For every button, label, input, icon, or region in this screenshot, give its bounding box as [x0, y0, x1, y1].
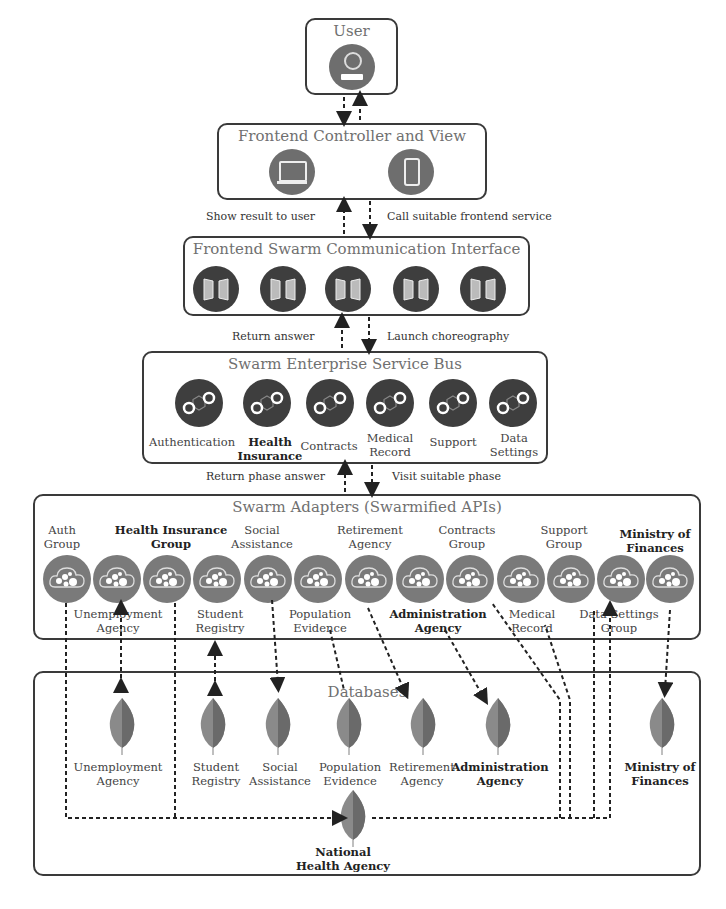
adapter-label-health-insurance-group: Health Insurance Group [106, 523, 236, 551]
smartphone-icon [388, 149, 434, 195]
frontend-controller-title: Frontend Controller and View [219, 127, 485, 145]
adapter-label-administration-agency: Administration Agency [383, 607, 493, 635]
cloud-adapter-icon [43, 555, 91, 603]
database-leaf-icon [409, 696, 437, 756]
database-leaf-icon [335, 696, 363, 756]
door-icon [325, 266, 371, 312]
service-label-health-insurance: Health Insurance [235, 435, 305, 463]
adapter-label-support-group: Support Group [534, 523, 594, 551]
user-box: User [305, 18, 398, 95]
db-label-student-registry: Student Registry [188, 760, 244, 788]
cloud-adapter-icon [396, 555, 444, 603]
esb-title: Swarm Enterprise Service Bus [144, 355, 546, 373]
cloud-adapter-icon [345, 555, 393, 603]
db-label-social-assistance: Social Assistance [245, 760, 315, 788]
service-node-icon [243, 379, 291, 427]
arrow-label-return-answer: Return answer [232, 330, 315, 343]
frontend-controller-box: Frontend Controller and View [217, 123, 487, 200]
db-label-ministry-of-finances: Ministry of Finances [620, 760, 700, 788]
service-label-contracts: Contracts [300, 439, 357, 453]
database-leaf-icon [108, 696, 136, 756]
cloud-adapter-icon [597, 555, 645, 603]
cloud-adapter-icon [193, 555, 241, 603]
user-icon [329, 44, 375, 90]
db-label-national-health-agency: National Health Agency [293, 845, 393, 873]
service-node-icon [429, 379, 477, 427]
db-label-unemployment-agency: Unemployment Agency [68, 760, 168, 788]
cloud-adapter-icon [93, 555, 141, 603]
service-label-data-settings: Data Settings [484, 431, 544, 459]
adapter-label-social-assistance: Social Assistance [227, 523, 297, 551]
adapter-label-ministry-of-finances: Ministry of Finances [615, 527, 695, 555]
enterprise-service-bus-box: Swarm Enterprise Service Bus Authenticat… [142, 351, 548, 464]
door-icon [193, 266, 239, 312]
door-icon [260, 266, 306, 312]
database-leaf-icon [648, 696, 676, 756]
cloud-adapter-icon [244, 555, 292, 603]
cloud-adapter-icon [497, 555, 545, 603]
arrow-label-return-phase: Return phase answer [206, 470, 325, 483]
service-label-support: Support [429, 435, 476, 449]
adapters-title: Swarm Adapters (Swarmified APIs) [35, 498, 699, 516]
database-leaf-icon [339, 788, 367, 848]
service-label-authentication: Authentication [149, 435, 235, 449]
door-icon [460, 266, 506, 312]
adapter-label-data-settings-group: Data Settings Group [574, 607, 664, 635]
cloud-adapter-icon [646, 555, 694, 603]
adapter-label-medical-record: Medical Record [504, 607, 560, 635]
service-node-icon [306, 379, 354, 427]
frontend-swarm-interface-box: Frontend Swarm Communication Interface [183, 236, 530, 316]
arrow-label-show-result: Show result to user [206, 210, 315, 223]
cloud-adapter-icon [143, 555, 191, 603]
fsci-title: Frontend Swarm Communication Interface [185, 240, 528, 258]
arrow-label-call-frontend: Call suitable frontend service [387, 210, 552, 223]
arrow-label-launch-choreography: Launch choreography [387, 330, 509, 343]
adapter-label-student-registry: Student Registry [190, 607, 250, 635]
service-node-icon [366, 379, 414, 427]
cloud-adapter-icon [547, 555, 595, 603]
database-leaf-icon [264, 696, 292, 756]
adapter-label-retirement-agency: Retirement Agency [335, 523, 405, 551]
service-label-medical-record: Medical Record [360, 431, 420, 459]
service-node-icon [175, 379, 223, 427]
cloud-adapter-icon [294, 555, 342, 603]
adapter-label-contracts-group: Contracts Group [432, 523, 502, 551]
service-node-icon [489, 379, 537, 427]
adapter-label-population-evidence: Population Evidence [285, 607, 355, 635]
adapter-label-unemployment-agency: Unemployment Agency [68, 607, 168, 635]
laptop-icon [269, 149, 315, 195]
database-leaf-icon [484, 696, 512, 756]
adapter-label-auth-group: Auth Group [37, 523, 87, 551]
db-label-administration-agency: Administration Agency [445, 760, 555, 788]
cloud-adapter-icon [446, 555, 494, 603]
arrow-label-visit-phase: Visit suitable phase [392, 470, 501, 483]
user-box-title: User [307, 22, 396, 40]
db-label-population-evidence: Population Evidence [315, 760, 385, 788]
database-leaf-icon [199, 696, 227, 756]
door-icon [393, 266, 439, 312]
